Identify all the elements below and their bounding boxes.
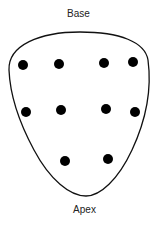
- dot-1: [18, 60, 28, 70]
- apex-label: Apex: [6, 204, 157, 215]
- dot-8: [130, 107, 140, 117]
- dot-6: [56, 105, 66, 115]
- diagram: [0, 0, 157, 227]
- dot-3: [99, 58, 109, 68]
- dot-10: [103, 154, 113, 164]
- dot-9: [60, 156, 70, 166]
- dot-4: [128, 57, 138, 67]
- dot-2: [54, 59, 64, 69]
- dot-7: [101, 104, 111, 114]
- dot-5: [21, 107, 31, 117]
